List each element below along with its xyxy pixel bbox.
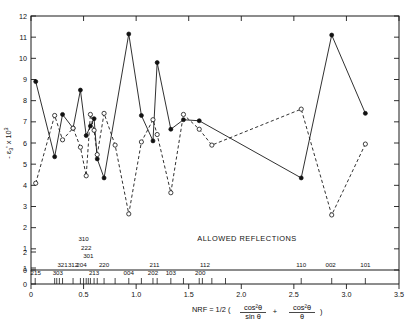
data-point-dashed-open bbox=[181, 112, 185, 116]
formula-plus: + bbox=[273, 307, 277, 316]
reflection-label: 204 bbox=[76, 261, 87, 268]
data-point-solid-filled bbox=[92, 117, 96, 121]
y-axis-tick-label: 3 bbox=[23, 202, 27, 211]
x-axis-tick-label: 2.0 bbox=[236, 290, 246, 299]
y-axis-tick-label: 12 bbox=[19, 12, 27, 21]
x-axis-tick-label: 3.0 bbox=[341, 290, 351, 299]
series-line-solid-filled bbox=[36, 34, 366, 178]
formula-numerator: cos²θ bbox=[244, 303, 262, 312]
y-axis-tick-label: 5 bbox=[23, 160, 27, 169]
data-point-solid-filled bbox=[88, 124, 92, 128]
data-point-solid-filled bbox=[127, 32, 131, 36]
data-point-solid-filled bbox=[151, 139, 155, 143]
data-point-dashed-open bbox=[330, 213, 334, 217]
reflections-strip-label: 1 bbox=[23, 264, 27, 273]
figure-container: 012345678910111201200.51.01.52.02.53.03.… bbox=[0, 0, 414, 326]
y-axis-title: - ε3' x 103 bbox=[3, 127, 14, 158]
reflection-label: 303 bbox=[53, 269, 64, 276]
y-axis-tick-label: 11 bbox=[20, 33, 27, 42]
y-axis-tick-label: 8 bbox=[23, 96, 27, 105]
chart-canvas: 012345678910111201200.51.01.52.02.53.03.… bbox=[0, 0, 414, 326]
data-point-solid-filled bbox=[363, 111, 367, 115]
reflection-label: 301 bbox=[83, 252, 94, 259]
data-point-dashed-open bbox=[139, 140, 143, 144]
data-point-solid-filled bbox=[299, 176, 303, 180]
data-point-solid-filled bbox=[181, 118, 185, 122]
data-point-dashed-open bbox=[88, 112, 92, 116]
data-point-dashed-open bbox=[197, 127, 201, 131]
reflection-label: 103 bbox=[166, 269, 177, 276]
y-axis-tick-label: 10 bbox=[19, 54, 27, 63]
formula-numerator: cos²θ bbox=[293, 303, 311, 312]
data-point-solid-filled bbox=[139, 113, 143, 117]
y-axis-tick-label: 4 bbox=[23, 181, 27, 190]
data-point-dashed-open bbox=[84, 174, 88, 178]
reflection-label: 222 bbox=[81, 244, 92, 251]
plot-frame bbox=[31, 16, 399, 270]
data-point-dashed-open bbox=[363, 142, 367, 146]
reflections-strip-label: 2 bbox=[23, 248, 27, 257]
x-axis-title: NRF = 1/2 ( bbox=[192, 305, 231, 314]
data-point-dashed-open bbox=[102, 111, 106, 115]
data-point-solid-filled bbox=[155, 61, 159, 65]
reflection-label: 101 bbox=[360, 261, 371, 268]
reflection-label: 213 bbox=[89, 269, 100, 276]
reflection-label: 211 bbox=[150, 261, 160, 268]
data-point-solid-filled bbox=[169, 127, 173, 131]
data-point-dashed-open bbox=[53, 113, 57, 117]
data-point-solid-filled bbox=[102, 176, 106, 180]
reflection-label: 215 bbox=[31, 269, 42, 276]
data-point-dashed-open bbox=[299, 107, 303, 111]
x-axis-tick-label: 1.5 bbox=[184, 290, 194, 299]
formula-denominator: θ bbox=[300, 312, 304, 321]
data-point-dashed-open bbox=[151, 118, 155, 122]
data-point-solid-filled bbox=[61, 112, 65, 116]
data-point-dashed-open bbox=[92, 128, 96, 132]
reflections-strip-label: 0 bbox=[23, 280, 27, 289]
y-axis-tick-label: 2 bbox=[23, 223, 27, 232]
data-point-dashed-open bbox=[78, 145, 82, 149]
y-axis-tick-label: 9 bbox=[23, 75, 27, 84]
data-point-solid-filled bbox=[330, 33, 334, 37]
reflection-label: 112 bbox=[200, 261, 210, 268]
reflection-label: 002 bbox=[325, 261, 336, 268]
data-point-solid-filled bbox=[78, 88, 82, 92]
formula-close-paren: ) bbox=[320, 307, 322, 316]
reflection-label: 321 bbox=[57, 261, 68, 268]
data-point-dashed-open bbox=[60, 138, 64, 142]
formula-denominator: sin θ bbox=[245, 312, 261, 321]
data-point-solid-filled bbox=[53, 155, 57, 159]
data-point-dashed-open bbox=[34, 181, 38, 185]
reflection-label: 200 bbox=[195, 269, 206, 276]
reflection-label: 202 bbox=[148, 269, 159, 276]
data-point-solid-filled bbox=[95, 157, 99, 161]
x-axis-tick-label: 0.5 bbox=[79, 290, 89, 299]
reflection-label: 220 bbox=[99, 261, 110, 268]
data-point-dashed-open bbox=[113, 143, 117, 147]
reflection-label: 310 bbox=[78, 235, 89, 242]
y-axis-tick-label: 6 bbox=[23, 139, 27, 148]
allowed-reflections-label: ALLOWED REFLECTIONS bbox=[197, 234, 296, 243]
data-point-dashed-open bbox=[169, 191, 173, 195]
data-point-dashed-open bbox=[210, 143, 214, 147]
data-point-dashed-open bbox=[95, 153, 99, 157]
x-axis-tick-label: 2.5 bbox=[289, 290, 299, 299]
x-axis-tick-label: 1.0 bbox=[131, 290, 141, 299]
reflection-label: 004 bbox=[124, 269, 135, 276]
y-axis-tick-label: 7 bbox=[23, 117, 27, 126]
x-axis-tick-label: 0 bbox=[29, 290, 33, 299]
reflection-label: 110 bbox=[296, 261, 306, 268]
data-point-dashed-open bbox=[127, 212, 131, 216]
data-point-solid-filled bbox=[84, 134, 88, 138]
data-point-dashed-open bbox=[71, 126, 75, 130]
data-point-dashed-open bbox=[155, 132, 159, 136]
x-axis-tick-label: 3.5 bbox=[394, 290, 404, 299]
data-point-solid-filled bbox=[197, 119, 201, 123]
data-point-solid-filled bbox=[34, 80, 38, 84]
